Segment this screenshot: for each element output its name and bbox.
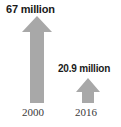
category-label-2000: 2000 bbox=[22, 107, 44, 118]
up-arrow-polygon-small bbox=[76, 78, 100, 103]
up-arrow-icon-2000 bbox=[21, 15, 53, 104]
value-label-2016: 20.9 million bbox=[58, 64, 110, 74]
category-label-2016: 2016 bbox=[75, 107, 97, 118]
infographic-chart: 67 million 20.9 million 2000 2016 bbox=[0, 0, 121, 127]
up-arrow-polygon-large bbox=[22, 16, 52, 103]
up-arrow-shape-small bbox=[75, 77, 101, 104]
up-arrow-icon-2016 bbox=[75, 77, 101, 104]
value-label-2000: 67 million bbox=[6, 4, 55, 15]
up-arrow-shape-large bbox=[21, 15, 53, 104]
